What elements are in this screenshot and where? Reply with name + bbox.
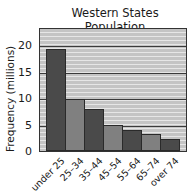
- y-tick-5: 5: [16, 119, 32, 132]
- y-tick-20: 20: [16, 39, 32, 52]
- bar-over-74: [160, 139, 180, 151]
- bar-under-25: [46, 49, 66, 151]
- plot-area: [39, 28, 187, 152]
- bar-35–44: [84, 109, 104, 151]
- y-tick-15: 15: [16, 66, 32, 79]
- bar-45–54: [103, 125, 123, 151]
- gridline-20: [40, 46, 186, 47]
- y-tick-0: 0: [16, 145, 32, 158]
- y-tick-10: 10: [16, 92, 32, 105]
- bar-65–74: [141, 134, 161, 151]
- bar-25–34: [65, 99, 85, 151]
- bar-55–64: [122, 130, 142, 151]
- y-axis-label: Frequency (millions): [4, 46, 16, 152]
